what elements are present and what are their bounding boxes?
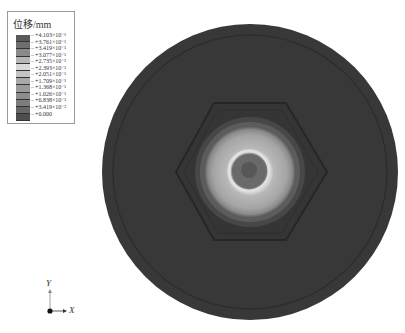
axis-arrows-icon [30, 278, 90, 318]
x-axis-label: X [69, 305, 75, 315]
y-axis-label: Y [46, 278, 51, 288]
axis-triad: Y X [30, 278, 90, 318]
core-center [241, 162, 257, 178]
